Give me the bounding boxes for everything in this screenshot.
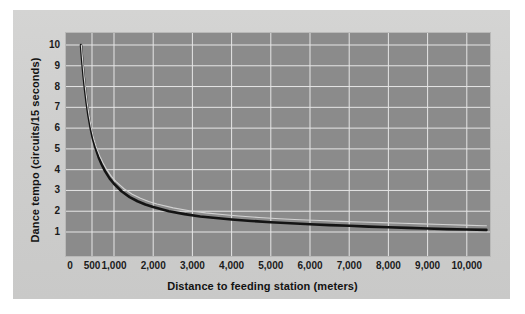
data-series-group	[81, 45, 486, 230]
x-tick-label-9000: 9,000	[415, 261, 440, 271]
y-tick-label-10: 10	[38, 40, 60, 50]
x-tick-label-8000: 8,000	[376, 261, 401, 271]
x-tick-label-7000: 7,000	[337, 261, 362, 271]
x-axis-title: Distance to feeding station (meters)	[0, 280, 525, 292]
chart-figure: 05001,0002,0003,0004,0005,0006,0007,0008…	[0, 0, 525, 314]
y-tick-label-8: 8	[38, 82, 60, 92]
x-tick-label-5000: 5,000	[258, 261, 283, 271]
y-tick-label-9: 9	[38, 61, 60, 71]
x-tick-label-4000: 4,000	[219, 261, 244, 271]
x-tick-label-500: 500	[84, 261, 101, 271]
x-tick-label-6000: 6,000	[297, 261, 322, 271]
y-tick-label-3: 3	[38, 185, 60, 195]
y-tick-label-7: 7	[38, 102, 60, 112]
x-tick-label-1000: 1,000	[101, 261, 126, 271]
y-tick-label-6: 6	[38, 123, 60, 133]
horizontal-gridlines	[66, 45, 490, 232]
dance-tempo-curve-light	[81, 45, 486, 226]
x-tick-label-3000: 3,000	[180, 261, 205, 271]
y-tick-label-4: 4	[38, 165, 60, 175]
plot-canvas	[66, 33, 490, 256]
x-tick-label-0: 0	[67, 261, 73, 271]
y-axis-title: Dance tempo (circuits/15 seconds)	[29, 45, 41, 255]
y-tick-label-1: 1	[38, 227, 60, 237]
x-tick-label-10000: 10,000	[452, 261, 483, 271]
dance-tempo-curve-dark	[81, 45, 486, 230]
plot-area	[66, 33, 490, 256]
x-tick-label-2000: 2,000	[141, 261, 166, 271]
y-tick-label-5: 5	[38, 144, 60, 154]
y-tick-label-2: 2	[38, 206, 60, 216]
